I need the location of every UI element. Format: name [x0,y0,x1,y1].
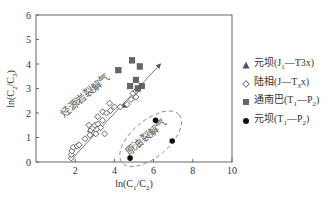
y-tick-label: 1 [26,132,31,143]
data-point [100,117,106,123]
y-tick-label: 6 [26,10,31,21]
square-marker-icon [242,98,250,106]
x-axis-label: ln(C1/C2) [115,178,153,192]
data-point [127,155,133,161]
data-point [135,86,141,92]
y-tick-label: 2 [26,108,31,119]
y-tick-label: 5 [26,34,31,45]
legend-item-tongnanba: 通南巴(T1—P2) [242,93,319,112]
x-tick-label: 6 [151,165,156,176]
legend-item-yuanba-t1: 元坝(T1—P2) [242,112,319,131]
data-point [127,83,133,89]
circle-marker-icon [242,117,250,125]
data-point [95,114,101,120]
x-tick-label: 2 [73,165,78,176]
y-tick-label: 3 [26,83,31,94]
data-point [133,77,139,83]
data-point [129,58,135,64]
diamond-marker-icon [242,80,250,88]
crude-oil-cracking-label: 原油裂解气 [122,116,169,158]
legend-item-luxiang: 陆相(J—T3x) [242,75,319,94]
data-point [82,136,88,142]
y-axis-label: ln(C2/C3) [5,70,19,108]
data-point [169,138,175,144]
data-point [137,64,143,70]
triangle-marker-icon [242,61,250,69]
data-point [102,131,108,137]
chart-legend: 元坝(J1—T3x) 陆相(J—T3x) 通南巴(T1—P2) 元坝(T1—P2… [242,56,319,130]
overlay: 烃源岩裂解气原油裂解气 [58,64,191,177]
data-point [153,118,159,124]
data-point [107,100,113,106]
x-tick-label: 8 [190,165,195,176]
y-tick-label: 4 [26,59,31,70]
x-tick-label: 10 [227,165,237,176]
data-point [116,67,122,73]
y-tick-label: 0 [26,157,31,168]
legend-item-yuanba-j1: 元坝(J1—T3x) [242,56,319,75]
trend-arrow [71,64,160,160]
x-tick-label: 4 [112,165,117,176]
